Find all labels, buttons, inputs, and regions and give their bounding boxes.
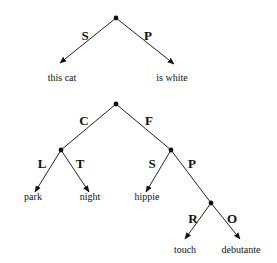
node-p [209, 201, 214, 206]
edge-label-r: R [188, 211, 198, 226]
leaf-night: night [80, 191, 101, 202]
tree-diagram: S P this cat is white C F L T S P R O pa… [0, 0, 277, 263]
leaf-park: park [24, 191, 42, 202]
leaf-this-cat: this cat [48, 72, 77, 83]
root-node-2 [114, 102, 119, 107]
root-node [114, 16, 119, 21]
leaf-hippie: hippie [135, 191, 161, 202]
edge-label-t: T [76, 156, 85, 171]
edge-label-s: S [148, 156, 155, 171]
node-f [169, 148, 174, 153]
edge-label-l: L [38, 156, 47, 171]
edge-label-o: O [227, 211, 237, 226]
leaf-touch: touch [174, 244, 196, 255]
edge-label-c: C [79, 113, 88, 128]
edge-label-p: P [144, 28, 152, 43]
leaf-debutante: debutante [222, 244, 261, 255]
edge-label-s: S [81, 28, 88, 43]
edge-f [116, 104, 171, 150]
edge-label-p: P [188, 156, 196, 171]
concept-tree: C F L T S P R O park night hippie touch … [24, 102, 261, 255]
leaf-is-white: is white [156, 72, 188, 83]
sentence-tree: S P this cat is white [48, 16, 189, 83]
node-c [59, 148, 64, 153]
edge-label-f: F [145, 113, 153, 128]
